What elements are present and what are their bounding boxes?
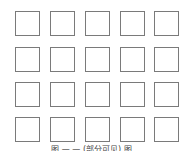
grid-square-r4-c2 [50,117,75,142]
grid-square-r1-c5 [154,11,179,36]
grid-square-r1-c3 [85,11,110,36]
grid-square-r2-c3 [85,47,110,72]
grid-square-r1-c1 [15,11,40,36]
grid-square-r3-c1 [15,82,40,107]
figure-caption: 图 — — (部分可见) 图 [0,145,183,151]
grid-square-r4-c3 [85,117,110,142]
grid-square-r3-c5 [154,82,179,107]
grid-square-r1-c2 [50,11,75,36]
grid-square-r4-c5 [154,117,179,142]
grid-square-r3-c2 [50,82,75,107]
grid-square-r2-c5 [154,47,179,72]
grid-square-r2-c2 [50,47,75,72]
grid-square-r2-c4 [120,47,145,72]
grid-square-r2-c1 [15,47,40,72]
grid-square-r3-c4 [120,82,145,107]
grid-square-r4-c1 [15,117,40,142]
grid-square-r3-c3 [85,82,110,107]
grid-square-r1-c4 [120,11,145,36]
grid-square-r4-c4 [120,117,145,142]
